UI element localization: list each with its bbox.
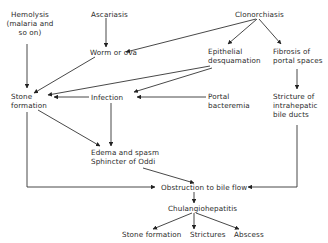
node-edema-line1: Edema and spasm [91, 148, 159, 157]
node-stricture-line1: Stricture of [273, 92, 318, 101]
edge-clonorchiasis-fibrosis [259, 19, 281, 44]
node-stone-line2: formation [11, 101, 47, 110]
node-worm-or-ova: Worm or ova [90, 48, 137, 57]
node-infection: Infection [91, 93, 123, 102]
edge-cholangio-stone [153, 213, 192, 229]
edge-stone-edema [38, 110, 100, 146]
edge-epithelial-infection [134, 68, 212, 92]
node-epithelial-desquamation: Epithelial desquamation [208, 47, 261, 65]
edge-cholangio-abscess [196, 213, 239, 229]
node-fibrosis-portal: Fibrosis of portal spaces [273, 47, 323, 65]
node-portal-line2: bacteremia [208, 101, 250, 110]
node-stone-formation-bottom: Stone formation [122, 230, 181, 239]
node-hemolysis-line2: (malaria and [4, 19, 56, 28]
node-abscess: Abscess [234, 230, 264, 239]
node-portal-bacteremia: Portal bacteremia [208, 92, 250, 110]
node-edema-spasm: Edema and spasm Sphincter of Oddi [91, 148, 159, 166]
node-stricture-line3: bile ducts [273, 110, 318, 119]
node-obstruction: Obstruction to bile flow [161, 183, 247, 192]
edge-worm-stone [34, 57, 95, 93]
node-stricture-line2: intrahepatic [273, 101, 318, 110]
node-hemolysis-line1: Hemolysis [4, 10, 56, 19]
node-portal-line1: Portal [208, 92, 250, 101]
node-epithelial-line1: Epithelial [208, 47, 261, 56]
node-clonorchiasis: Clonorchiasis [235, 10, 284, 19]
flowchart-diagram: Hemolysis (malaria and so on) Ascariasis… [0, 0, 328, 243]
node-stone-formation-top: Stone formation [11, 92, 47, 110]
edge-stricture-obstruction [248, 125, 297, 187]
node-cholangiohepatitis: Chulangiohepatitis [168, 204, 237, 213]
node-hemolysis: Hemolysis (malaria and so on) [4, 10, 56, 37]
node-edema-line2: Sphincter of Oddi [91, 157, 159, 166]
node-strictures: Strictures [190, 230, 226, 239]
node-ascariasis: Ascariasis [91, 10, 128, 19]
edge-edema-obstruction [143, 168, 194, 183]
node-fibrosis-line2: portal spaces [273, 56, 323, 65]
node-hemolysis-line3: so on) [4, 28, 56, 37]
node-stricture-intrahepatic: Stricture of intrahepatic bile ducts [273, 92, 318, 119]
node-stone-line1: Stone [11, 92, 47, 101]
node-fibrosis-line1: Fibrosis of [273, 47, 323, 56]
node-epithelial-line2: desquamation [208, 56, 261, 65]
